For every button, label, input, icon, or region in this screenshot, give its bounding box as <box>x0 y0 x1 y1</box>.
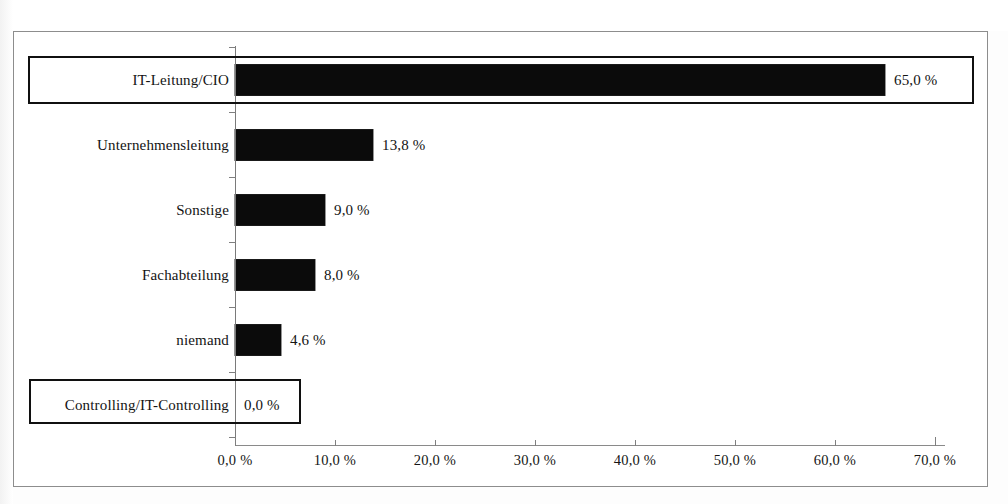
x-axis-tick <box>335 440 336 446</box>
bar-row: Fachabteilung8,0 % <box>14 251 989 299</box>
bar-value-label: 4,6 % <box>290 332 326 349</box>
bar <box>235 325 281 356</box>
bar-value-label: 13,8 % <box>382 137 425 154</box>
scanned-page: IT-Leitung/CIO65,0 %Unternehmensleitung1… <box>0 0 1008 504</box>
y-axis-tick <box>229 177 236 178</box>
x-axis-tick-label: 10,0 % <box>290 452 380 469</box>
bar-value-label: 8,0 % <box>324 267 360 284</box>
bar-row: niemand4,6 % <box>14 316 989 364</box>
y-axis-tick <box>229 437 236 438</box>
bar-row: Controlling/IT-Controlling0,0 % <box>14 381 989 429</box>
bar-row: IT-Leitung/CIO65,0 % <box>14 56 989 104</box>
chart-frame: IT-Leitung/CIO65,0 %Unternehmensleitung1… <box>13 31 988 487</box>
x-axis-tick-label: 70,0 % <box>890 452 980 469</box>
y-axis-tick <box>229 242 236 243</box>
x-axis-tick <box>535 440 536 446</box>
x-axis-tick <box>935 437 936 446</box>
y-axis-tick <box>229 112 236 113</box>
bar <box>235 260 315 291</box>
category-label: Sonstige <box>176 202 229 219</box>
x-axis-tick <box>435 440 436 446</box>
bar <box>235 65 885 96</box>
category-label: niemand <box>176 332 229 349</box>
bar-row: Unternehmensleitung13,8 % <box>14 121 989 169</box>
bar-row: Sonstige9,0 % <box>14 186 989 234</box>
value-axis-line <box>235 46 236 446</box>
bar-value-label: 65,0 % <box>894 72 937 89</box>
x-axis-tick <box>235 437 236 446</box>
page-top-margin <box>0 0 1008 31</box>
x-axis-tick <box>735 440 736 446</box>
x-axis-tick <box>635 440 636 446</box>
plot-area: IT-Leitung/CIO65,0 %Unternehmensleitung1… <box>14 32 989 488</box>
y-axis-tick <box>229 307 236 308</box>
bar-value-label: 0,0 % <box>244 397 280 414</box>
bar-value-label: 9,0 % <box>334 202 370 219</box>
x-axis-tick-label: 60,0 % <box>790 452 880 469</box>
x-axis-tick-label: 20,0 % <box>390 452 480 469</box>
page-left-margin <box>0 0 13 504</box>
category-label: IT-Leitung/CIO <box>132 72 229 89</box>
category-label: Fachabteilung <box>142 267 229 284</box>
y-axis-tick <box>229 372 236 373</box>
x-axis-tick-label: 0,0 % <box>190 452 280 469</box>
x-axis-tick <box>835 440 836 446</box>
bar <box>235 130 373 161</box>
bar <box>235 195 325 226</box>
y-axis-tick <box>229 47 236 48</box>
x-axis-tick-label: 30,0 % <box>490 452 580 469</box>
category-axis-line <box>235 445 945 446</box>
x-axis-tick-label: 50,0 % <box>690 452 780 469</box>
category-label: Controlling/IT-Controlling <box>65 397 229 414</box>
category-label: Unternehmensleitung <box>97 137 229 154</box>
x-axis-tick-label: 40,0 % <box>590 452 680 469</box>
